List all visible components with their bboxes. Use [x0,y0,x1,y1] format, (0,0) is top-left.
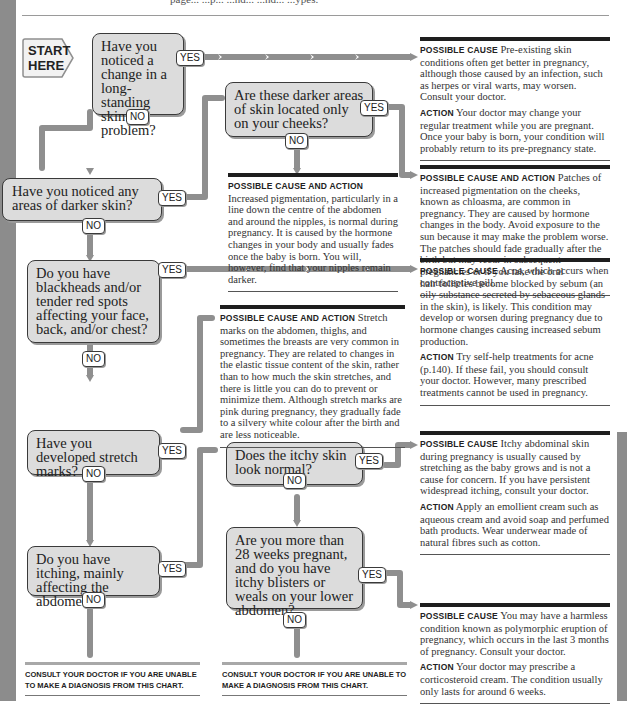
question-box-blackheads: Do you have blackheads and/or tender red… [27,260,160,343]
consult-doctor-note-right: Consult your doctor if you are unable to… [222,662,407,696]
question-text: Are these darker areas of skin located o… [234,87,363,131]
result-heading: Possible cause [420,266,498,276]
no-label: NO [82,592,105,608]
result-heading: Possible cause [420,45,498,55]
result-top-rule [420,431,610,435]
result-top-rule [420,165,610,169]
no-label: NO [82,218,105,234]
no-label: NO [126,109,149,125]
yes-label: YES [358,567,386,583]
question-box-itching-abdomen: Do you have itching, mainly affecting th… [27,546,160,596]
result-bottom-rule [420,405,610,406]
yes-label: YES [355,453,383,469]
result-heading: Possible cause and action [228,181,363,191]
yes-label: YES [158,262,186,278]
result-heading: Possible cause and action [420,173,555,183]
result-bottom-rule [220,447,405,448]
no-label: NO [283,473,306,489]
question-text: Do you have blackheads and/or tender red… [36,265,149,337]
question-text: Are you more than 28 weeks pregnant, and… [235,532,353,618]
result-top-rule [220,305,405,309]
result-top-rule [420,258,610,262]
result-heading: Action [420,662,454,672]
result-heading: Action [420,108,454,118]
yes-label: YES [158,190,186,206]
no-label: NO [285,133,308,149]
result-top-rule [420,37,610,41]
result-heading: Possible cause [420,439,498,449]
result-general-pigmentation: Possible cause and action Increased pigm… [228,173,398,292]
yes-label: YES [176,50,204,66]
result-top-rule [420,603,610,607]
question-box-darker-cheeks: Are these darker areas of skin located o… [225,82,373,137]
result-polymorphic-eruption: Possible cause You may have a harmless c… [420,603,610,704]
result-heading: Possible cause and action [220,313,355,323]
no-label: NO [82,351,105,367]
result-bottom-rule [420,554,610,555]
start-here-label: START HERE [28,43,70,73]
consult-doctor-note-left: Consult your doctor if you are unable to… [25,662,200,696]
result-acne: Possible cause Acne, which occurs when h… [420,258,610,406]
result-bottom-rule [228,291,398,292]
question-box-28-weeks-blisters: Are you more than 28 weeks pregnant, and… [226,527,363,609]
result-bottom-rule [420,160,610,161]
no-label: NO [283,612,306,628]
yes-label: YES [360,100,388,116]
result-top-rule [228,173,398,177]
result-heading: Action [420,352,454,362]
result-long-standing-skin-problem: Possible cause Pre-existing skin conditi… [420,37,610,161]
result-heading: Action [420,502,454,512]
question-box-darker-skin: Have you noticed any areas of darker ski… [2,178,162,221]
question-box-long-standing-skin-problem: Have you noticed a change in a long-stan… [92,33,184,115]
question-text: Have you noticed any areas of darker ski… [12,183,139,213]
yes-label: YES [158,561,186,577]
yes-label: YES [158,443,186,459]
no-label: NO [82,466,105,482]
result-heading: Possible cause [420,611,498,621]
result-stretch-marks: Possible cause and action Stretch marks … [220,305,405,448]
result-itchy-abdominal-skin: Possible cause Itchy abdominal skin duri… [420,431,610,555]
